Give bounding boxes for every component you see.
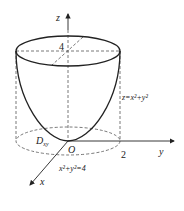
x-axis-label: x [39, 176, 45, 187]
surface-equation-label: z=x²+y² [121, 93, 148, 102]
origin-label: O [68, 144, 75, 155]
y-axis-label: y [158, 146, 164, 157]
z-axis-label: z [55, 12, 60, 23]
z-height-tick: 4 [59, 41, 64, 52]
y-radius-tick: 2 [121, 149, 126, 160]
x-axis [30, 141, 68, 185]
paraboloid-diagram: z 4 z=x²+y² Dxy O 2 y x²+y²=4 x [0, 0, 184, 211]
region-label: Dxy [35, 135, 49, 147]
diagram-canvas: z 4 z=x²+y² Dxy O 2 y x²+y²=4 x [0, 0, 184, 211]
boundary-equation-label: x²+y²=4 [58, 164, 86, 173]
